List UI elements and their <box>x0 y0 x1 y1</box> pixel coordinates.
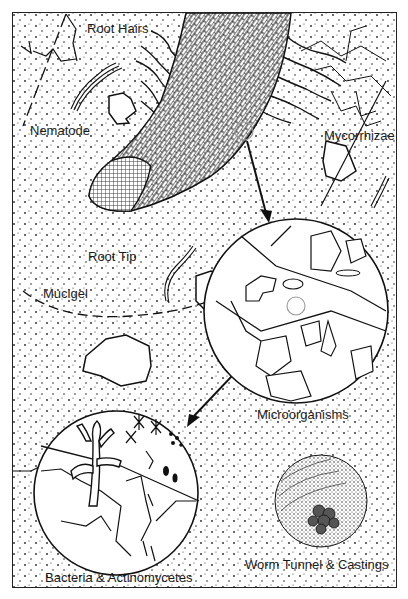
label-microorganisms: Microorganisms <box>257 408 349 421</box>
label-root-tip: Root Tip <box>88 250 136 263</box>
label-bacteria-actinomycetes: Bacteria & Actinomycetes <box>45 571 192 584</box>
label-mycorrhizae: Mycorrhizae <box>324 129 395 142</box>
diagram-frame: Root Hairs Nematode Mycorrhizae Root Tip… <box>12 12 397 588</box>
label-worm-tunnel-castings: Worm Tunnel & Castings <box>245 558 389 571</box>
bacteria-circle <box>34 411 199 575</box>
label-root-hairs: Root Hairs <box>87 22 148 35</box>
label-mucigel: Mucigel <box>43 287 88 300</box>
label-nematode: Nematode <box>30 124 90 137</box>
microorganisms-circle <box>204 219 388 403</box>
worm-tunnel <box>275 455 367 547</box>
